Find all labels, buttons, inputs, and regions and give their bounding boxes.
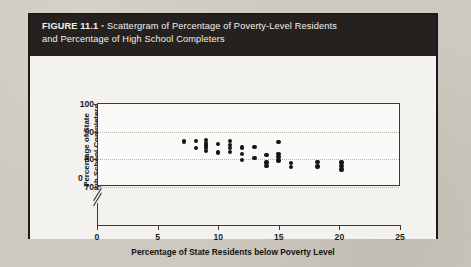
chart-area: Percentage of State High School Complete… — [30, 56, 436, 239]
page-background: FIGURE 11.1▪Scattergram of Percentage of… — [0, 0, 471, 267]
scatter-point — [252, 156, 256, 160]
caption-line-1: FIGURE 11.1▪Scattergram of Percentage of… — [42, 20, 424, 33]
x-tick-label: 10 — [213, 232, 223, 242]
scatter-point — [240, 152, 244, 156]
plot-frame: 708090100 — [97, 103, 400, 186]
scatter-point — [194, 139, 198, 143]
y-tick-label: 100 — [80, 99, 94, 109]
scatter-point — [264, 164, 268, 168]
y-tick-label: 90 — [84, 127, 94, 137]
y-gridline — [98, 132, 399, 133]
scatter-point — [216, 142, 220, 146]
scatter-point — [204, 149, 208, 153]
y-gridline — [98, 187, 399, 188]
scatter-point — [182, 139, 186, 143]
y-tick-label-zero: 0 — [78, 173, 83, 183]
x-tick-mark — [158, 225, 159, 230]
scatter-point — [276, 158, 280, 162]
scatter-point — [240, 158, 244, 162]
x-tick-label: 20 — [335, 232, 345, 242]
x-tick-label: 25 — [395, 232, 405, 242]
x-tick-mark — [279, 225, 280, 230]
x-tick-label: 15 — [274, 232, 284, 242]
x-axis-line — [97, 225, 400, 226]
x-tick-mark — [218, 225, 219, 230]
x-tick-label: 5 — [155, 232, 160, 242]
y-tick-mark — [94, 159, 98, 160]
scatter-point — [276, 140, 280, 144]
scatter-point — [216, 150, 220, 154]
y-gridline — [98, 159, 399, 160]
x-tick-label: 0 — [95, 232, 100, 242]
x-tick-mark — [400, 225, 401, 230]
scatter-point — [264, 153, 268, 157]
scatter-point — [339, 167, 343, 171]
scatter-point — [228, 150, 232, 154]
figure-number: FIGURE 11.1 — [42, 21, 98, 31]
figure-container: FIGURE 11.1▪Scattergram of Percentage of… — [28, 13, 438, 239]
scatter-point — [289, 165, 293, 169]
scatter-point — [240, 145, 244, 149]
y-tick-mark — [94, 132, 98, 133]
caption-line-2: and Percentage of High School Completers — [42, 33, 424, 45]
figure-caption-bar: FIGURE 11.1▪Scattergram of Percentage of… — [30, 15, 436, 56]
y-tick-label: 80 — [84, 154, 94, 164]
y-axis-label-line1: Percentage of State — [82, 113, 91, 187]
scatter-point — [315, 164, 319, 168]
x-tick-mark — [97, 225, 98, 230]
scatter-point — [194, 146, 198, 150]
x-axis-label: Percentage of State Residents below Pove… — [30, 247, 436, 257]
axis-break-icon — [90, 189, 105, 204]
scatter-point — [252, 145, 256, 149]
y-axis-label-wrapper: Percentage of State High School Complete… — [48, 100, 66, 196]
caption-bullet-icon: ▪ — [98, 22, 107, 29]
y-tick-mark — [94, 104, 98, 105]
caption-text-1: Scattergram of Percentage of Poverty-Lev… — [107, 21, 337, 31]
x-tick-mark — [339, 225, 340, 230]
